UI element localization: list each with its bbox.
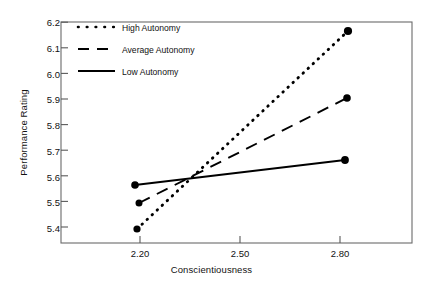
series-average-autonomy bbox=[136, 94, 351, 206]
y-tick-label-6.2: 6.2 bbox=[30, 17, 60, 28]
series-high-autonomy bbox=[133, 27, 352, 233]
y-tick-label-5.8: 5.8 bbox=[30, 120, 60, 131]
plot-canvas bbox=[0, 0, 423, 286]
interaction-plot-figure: Performance Rating Conscientiousness 5.4… bbox=[0, 0, 423, 286]
series-low-autonomy bbox=[131, 156, 349, 189]
data-point-average-autonomy-high-x bbox=[343, 94, 351, 102]
y-axis-title: Performance Rating bbox=[18, 63, 29, 203]
data-point-high-autonomy-high-x bbox=[344, 27, 352, 35]
y-tick-label-5.9: 5.9 bbox=[30, 94, 60, 105]
y-tick-label-6.0: 6.0 bbox=[30, 69, 60, 80]
data-point-high-autonomy-low-x bbox=[133, 225, 140, 232]
x-tick-label-2.20: 2.20 bbox=[118, 248, 162, 259]
y-tick-label-5.5: 5.5 bbox=[30, 197, 60, 208]
data-point-low-autonomy-high-x bbox=[341, 156, 349, 164]
data-point-low-autonomy-low-x bbox=[131, 181, 139, 189]
legend-label-low-autonomy: Low Autonomy bbox=[122, 67, 178, 77]
legend-label-high-autonomy: High Autonomy bbox=[122, 23, 180, 33]
plot-frame bbox=[61, 22, 412, 243]
y-tick-label-5.4: 5.4 bbox=[30, 223, 60, 234]
x-tick-label-2.80: 2.80 bbox=[318, 248, 362, 259]
y-axis-ticks bbox=[61, 22, 68, 227]
x-tick-label-2.50: 2.50 bbox=[218, 248, 262, 259]
x-axis-title: Conscientiousness bbox=[0, 264, 423, 275]
legend-label-average-autonomy: Average Autonomy bbox=[122, 45, 194, 55]
x-axis-ticks bbox=[140, 236, 340, 243]
y-tick-label-5.7: 5.7 bbox=[30, 146, 60, 157]
y-tick-label-5.6: 5.6 bbox=[30, 172, 60, 183]
y-tick-label-6.1: 6.1 bbox=[30, 43, 60, 54]
data-point-average-autonomy-low-x bbox=[136, 200, 143, 207]
